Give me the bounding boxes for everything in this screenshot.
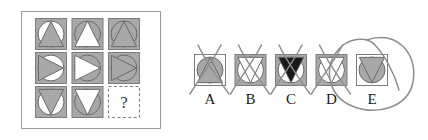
option-label-e: E [367, 91, 376, 107]
matrix-cell-r1c1 [36, 19, 67, 50]
matrix-grid: ? [36, 19, 140, 118]
option-label-b: B [245, 91, 255, 107]
matrix-cell-r2c3 [109, 53, 140, 84]
puzzle-stage: ? ABCDE [0, 0, 428, 140]
option-label-d: D [326, 91, 337, 107]
matrix-cell-r3c2 [72, 87, 103, 118]
matrix-cell-r1c2 [72, 19, 103, 50]
option-label-c: C [286, 91, 296, 107]
option-label-a: A [205, 91, 216, 107]
answer-options [195, 55, 388, 86]
matrix-cell-r3c1 [36, 87, 67, 118]
option-e[interactable] [357, 55, 388, 86]
matrix-cell-r2c1 [36, 53, 67, 84]
puzzle-canvas: ? ABCDE [0, 0, 428, 140]
question-mark: ? [120, 93, 128, 112]
matrix-cell-r1c3 [109, 19, 140, 50]
matrix-cell-r2c2 [72, 53, 103, 84]
